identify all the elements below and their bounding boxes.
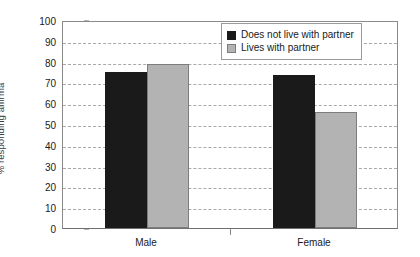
gray-swatch: [227, 44, 236, 53]
bar: [273, 75, 315, 228]
y-axis-tick-labels: 1009080706050403020100: [26, 21, 56, 229]
y-axis-tick-label: 10: [45, 203, 56, 214]
y-axis-tick-label: 40: [45, 140, 56, 151]
x-axis-category-labels: MaleFemale: [62, 229, 398, 255]
y-axis-title: % responding affirma: [0, 0, 28, 257]
x-axis-category-label: Female: [297, 237, 330, 248]
y-axis-tick-label: 60: [45, 99, 56, 110]
legend-entry: Does not live with partner: [227, 29, 354, 41]
bar: [147, 64, 189, 228]
y-axis-title-text: % responding affirma: [0, 83, 6, 175]
y-axis-tick-label: 30: [45, 161, 56, 172]
black-swatch: [227, 31, 236, 40]
chart-legend: Does not live with partnerLives with par…: [221, 23, 362, 60]
x-axis-tick-mark: [230, 229, 231, 235]
bar: [105, 72, 147, 228]
y-axis-tick-label: 20: [45, 182, 56, 193]
y-axis-tick-label: 100: [39, 16, 56, 27]
y-axis-tick-label: 90: [45, 36, 56, 47]
bar: [315, 112, 357, 228]
legend-label: Does not live with partner: [241, 29, 354, 41]
y-axis-tick-label: 50: [45, 120, 56, 131]
legend-label: Lives with partner: [241, 42, 319, 54]
y-axis-tick-label: 70: [45, 78, 56, 89]
x-axis-category-label: Male: [135, 237, 157, 248]
legend-entry: Lives with partner: [227, 42, 354, 54]
y-axis-tick-label: 0: [50, 224, 56, 235]
bar-group: [105, 22, 189, 228]
bar-chart-figure: % responding affirma 1009080706050403020…: [0, 0, 420, 257]
y-axis-tick-label: 80: [45, 57, 56, 68]
